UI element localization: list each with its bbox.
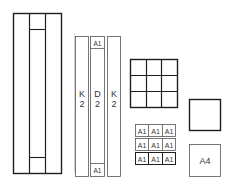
grid-3x3 [131,60,178,108]
center-strip-bottom-cell: A1 [94,167,102,174]
diagram-canvas: K 2 A1 D 2 A1 K 2 A1 A1 [0,0,226,182]
a1-grid: A1 A1 A1 A1 A1 A1 A1 A1 A1 [136,125,176,165]
right-strip: K 2 [108,37,121,177]
a1-cell: A1 [165,156,174,163]
a1-cell: A1 [151,156,160,163]
a4-label: A4 [199,156,210,166]
right-strip-label-1: K [111,89,117,99]
a1-cell: A1 [138,156,147,163]
a1-cell: A1 [151,142,160,149]
a1-cell: A1 [165,142,174,149]
left-strip-label-2: 2 [79,99,84,109]
center-strip-label-1: D [94,89,101,99]
a1-cell: A1 [151,128,160,135]
a1-cell: A1 [138,128,147,135]
a1-cell: A1 [165,128,174,135]
right-strip-label-2: 2 [111,99,116,109]
center-strip-top-cell: A1 [94,40,102,47]
square [190,100,221,131]
left-strip-label-1: K [79,89,85,99]
left-strip: K 2 [76,37,89,177]
a4-box: A4 [190,145,221,177]
a1-cell: A1 [138,142,147,149]
tall-frame [14,14,62,174]
center-strip: A1 D 2 A1 [91,37,105,177]
center-strip-label-2: 2 [95,99,100,109]
